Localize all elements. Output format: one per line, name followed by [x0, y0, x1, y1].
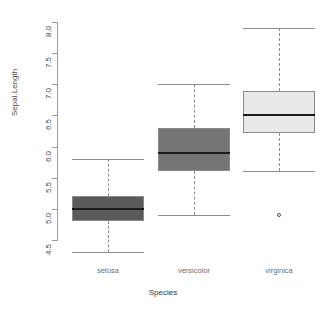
- x-tick-label-versicolor: versicolor: [178, 266, 210, 275]
- y-axis-tick: [52, 147, 57, 148]
- whisker-upper: [279, 28, 280, 90]
- y-axis-line: [57, 22, 58, 241]
- y-axis-tick-label: 8.0: [44, 21, 53, 43]
- y-axis-tick-label: 5.0: [44, 207, 53, 229]
- outlier-point: [277, 213, 281, 217]
- x-axis-title: Species: [0, 288, 326, 297]
- whisker-cap-upper: [158, 84, 230, 85]
- whisker-lower: [194, 171, 195, 215]
- whisker-upper: [108, 159, 109, 196]
- whisker-lower: [108, 221, 109, 252]
- whisker-cap-upper: [243, 28, 315, 29]
- y-axis-tick: [52, 240, 57, 241]
- y-axis-tick-label: 6.5: [44, 114, 53, 136]
- y-axis-tick: [52, 84, 57, 85]
- y-axis-tick: [52, 209, 57, 210]
- median-line-virginica: [243, 114, 315, 116]
- y-axis-tick: [52, 53, 57, 54]
- whisker-upper: [194, 84, 195, 128]
- y-axis-tick-label: 4.5: [44, 239, 53, 261]
- whisker-cap-upper: [72, 159, 144, 160]
- whisker-cap-lower: [158, 215, 230, 216]
- median-line-versicolor: [158, 152, 230, 154]
- box-versicolor: [158, 128, 230, 172]
- median-line-setosa: [72, 208, 144, 210]
- y-axis-tick-label: 7.0: [44, 83, 53, 105]
- boxplot-figure: Sepal.Length 4.55.05.56.06.57.07.58.0 se…: [0, 0, 326, 312]
- x-tick-label-virginica: virginica: [265, 266, 293, 275]
- y-axis-tick-label: 6.0: [44, 145, 53, 167]
- x-tick-label-setosa: setosa: [97, 266, 119, 275]
- whisker-cap-lower: [72, 252, 144, 253]
- y-axis-tick: [52, 115, 57, 116]
- y-axis-tick: [52, 22, 57, 23]
- box-virginica: [243, 91, 315, 133]
- y-axis-title: Sepal.Length: [10, 100, 19, 116]
- y-axis-tick-label: 5.5: [44, 176, 53, 198]
- y-axis-tick-label: 7.5: [44, 52, 53, 74]
- whisker-cap-lower: [243, 171, 315, 172]
- whisker-lower: [279, 133, 280, 172]
- y-axis-tick: [52, 178, 57, 179]
